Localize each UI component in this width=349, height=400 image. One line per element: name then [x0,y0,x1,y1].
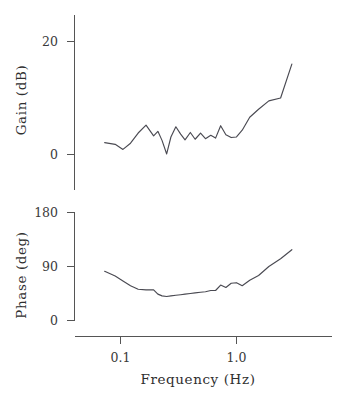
gain-axis-title: Gain (dB) [13,65,29,136]
phase-panel: 180 90 0 Phase (deg) 0.1 1.0 Frequency (… [13,205,332,388]
frequency-axis-title: Frequency (Hz) [140,371,255,387]
phase-data-line [105,250,292,297]
freq-tick-label-1.0: 1.0 [227,350,247,365]
gain-panel: 20 0 Gain (dB) [13,15,292,190]
bode-plot-figure: 20 0 Gain (dB) 180 90 0 Phase (deg) [0,0,349,400]
gain-data-line [105,64,292,154]
freq-tick-label-0.1: 0.1 [111,350,131,365]
gain-tick-label-20: 20 [42,34,58,49]
bode-plot-svg: 20 0 Gain (dB) 180 90 0 Phase (deg) [0,0,349,400]
phase-tick-label-90: 90 [42,259,58,274]
phase-tick-label-180: 180 [34,205,58,220]
gain-tick-label-0: 0 [50,147,58,162]
phase-axis-title: Phase (deg) [13,231,29,318]
phase-tick-label-0: 0 [50,313,58,328]
